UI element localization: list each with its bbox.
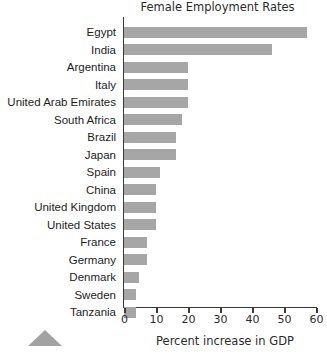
category-label: France	[0, 236, 116, 248]
bar	[124, 202, 156, 213]
bar	[124, 167, 159, 178]
bar-chart: Female Employment Rates Percent increase…	[0, 0, 327, 354]
bar	[124, 44, 271, 55]
category-label: China	[0, 184, 116, 196]
bar	[124, 219, 156, 230]
bar	[124, 289, 135, 300]
category-label: India	[0, 44, 116, 56]
bar	[124, 62, 188, 73]
bar	[124, 97, 188, 108]
category-label: Brazil	[0, 131, 116, 143]
x-tick-label: 0	[109, 313, 139, 326]
bar	[124, 254, 146, 265]
x-tick-label: 10	[141, 313, 171, 326]
category-label: United Arab Emirates	[0, 96, 116, 108]
chart-title: Female Employment Rates	[108, 0, 327, 14]
category-label: Egypt	[0, 26, 116, 38]
x-tick-label: 50	[269, 313, 299, 326]
category-label: United Kingdom	[0, 201, 116, 213]
x-tick-label: 30	[205, 313, 235, 326]
category-label: Denmark	[0, 271, 116, 283]
category-label: Japan	[0, 149, 116, 161]
bar	[124, 184, 156, 195]
x-tick-label: 60	[301, 313, 327, 326]
x-tick-label: 40	[237, 313, 267, 326]
category-label: South Africa	[0, 114, 116, 126]
category-label: Sweden	[0, 289, 116, 301]
bar	[124, 272, 138, 283]
bar	[124, 27, 306, 38]
x-axis-title: Percent increase in GDP	[123, 334, 327, 348]
bar	[124, 132, 175, 143]
bar	[124, 114, 182, 125]
x-tick-label: 20	[173, 313, 203, 326]
category-label: Argentina	[0, 61, 116, 73]
triangle-marker-icon	[28, 330, 62, 346]
category-label: Tanzania	[0, 306, 116, 318]
bar	[124, 149, 175, 160]
category-label: Spain	[0, 166, 116, 178]
bar	[124, 79, 188, 90]
category-label: Italy	[0, 79, 116, 91]
category-label: United States	[0, 219, 116, 231]
category-label: Germany	[0, 254, 116, 266]
bar	[124, 237, 146, 248]
